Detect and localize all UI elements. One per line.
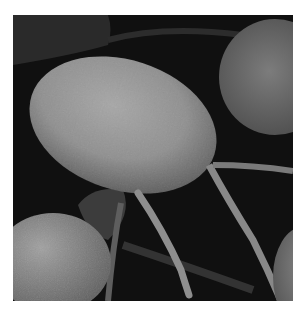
micrograph-svg (13, 15, 293, 301)
micrograph-image (13, 15, 293, 301)
